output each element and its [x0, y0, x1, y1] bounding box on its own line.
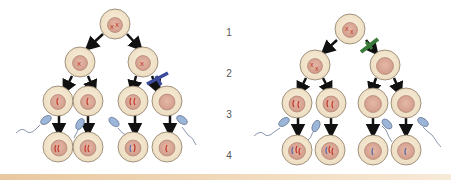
row-label-1: 1: [219, 27, 239, 38]
row-label-4: 4: [219, 150, 239, 161]
meiosis-fertilization-diagram: x x x x: [0, 0, 451, 180]
left-lineage: x x x x: [16, 9, 196, 162]
cells-row2: x x: [65, 47, 158, 77]
svg-text:x: x: [310, 61, 314, 68]
svg-text:x: x: [140, 59, 144, 68]
cells-row2: x x: [300, 50, 400, 80]
right-lineage: x x x x: [254, 14, 441, 165]
svg-text:x: x: [350, 28, 354, 35]
cell-row1: x x: [335, 14, 365, 44]
cells-row4: [43, 132, 182, 162]
cells-row4: [282, 135, 421, 165]
block-green-icon: [361, 39, 378, 52]
bottom-stripe: [0, 174, 451, 180]
cell-row1: x x: [100, 9, 130, 39]
svg-text:x: x: [110, 22, 114, 31]
cells-row3: [282, 88, 421, 118]
svg-text:x: x: [115, 20, 119, 29]
row-label-3: 3: [219, 109, 239, 120]
cells-row3: [43, 86, 182, 116]
row-label-2: 2: [219, 68, 239, 79]
svg-text:x: x: [345, 25, 349, 32]
svg-text:x: x: [77, 59, 81, 68]
svg-text:x: x: [315, 65, 319, 72]
